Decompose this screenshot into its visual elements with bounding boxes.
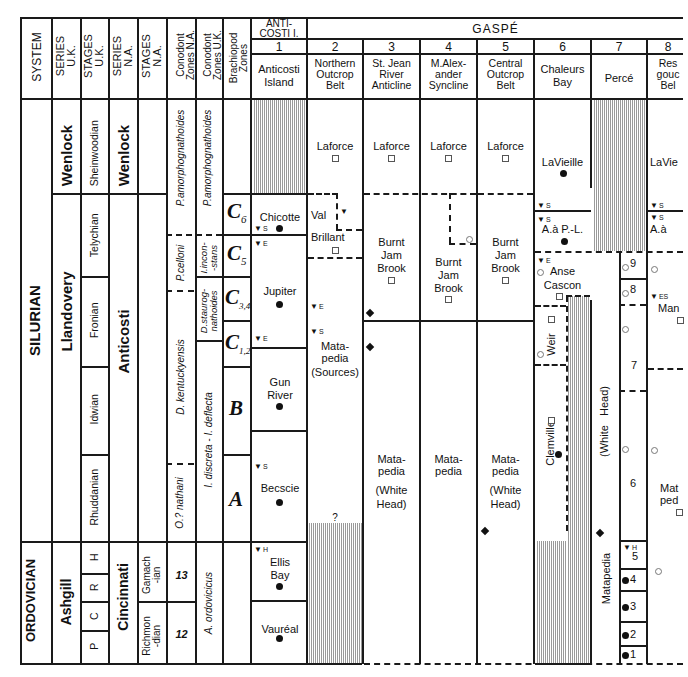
fossil-circle — [622, 264, 629, 271]
formation-laforce: Laforce — [478, 141, 533, 152]
col1-line — [252, 193, 308, 195]
marker-e: ▼E — [254, 335, 268, 343]
marker-s: ▼S — [254, 225, 268, 233]
col-divider — [108, 17, 110, 664]
col7-dash — [619, 304, 646, 306]
col7-hiatus — [593, 100, 646, 251]
stage-na-richmondian: Richmon-dian — [142, 608, 162, 664]
fossil-square — [445, 155, 452, 162]
brach-c6-top — [222, 193, 252, 195]
fossil-dot — [276, 635, 283, 642]
locality-num-1: 1 — [252, 41, 306, 53]
brach-zone-c5: C5 — [227, 243, 247, 267]
col3-dash — [364, 193, 476, 195]
stage-uk-sheinwoodian: Sheinwoodian — [89, 103, 100, 203]
col7-dash — [619, 390, 646, 392]
fossil-circle — [537, 351, 544, 358]
series-na-anticosti: Anticosti — [116, 287, 131, 397]
stage-na-gamachian: Gamach-ian — [142, 549, 162, 601]
marker-s: ▼S — [650, 202, 664, 210]
locality-num-8: 8 — [648, 41, 688, 53]
formation-becscie: Becscie — [252, 483, 308, 494]
formation-laforce: Laforce — [421, 141, 476, 152]
fronian-idwian — [80, 366, 108, 368]
col-divider — [590, 38, 592, 188]
locality-num-4: 4 — [421, 41, 476, 53]
formation-val-brillant-1: Val — [311, 210, 326, 221]
unit-6: 6 — [630, 478, 636, 489]
conodont-na-zone-13: 13 — [168, 570, 195, 581]
col1-line — [252, 234, 308, 236]
telychian-fronian — [80, 276, 108, 278]
formation-laforce: Laforce — [364, 141, 419, 152]
fossil-dot — [561, 238, 568, 245]
gamachian-richmondian — [137, 601, 195, 603]
col1-bottom — [252, 663, 308, 665]
stage-uk-r: R — [89, 577, 100, 597]
fossil-circle — [651, 266, 658, 273]
r-c — [80, 601, 108, 603]
col7-line — [619, 645, 648, 647]
brach-zone-c34: C3,4 — [225, 287, 250, 311]
col3-line — [364, 320, 534, 322]
conodont-na-onathani: O.? nathani — [175, 463, 185, 543]
formation-a-a-partial: A.à — [650, 224, 667, 235]
unit-5: 5 — [632, 551, 638, 562]
formation-weir: Weir — [546, 327, 557, 363]
unit-3: 3 — [630, 601, 636, 612]
marker-h: ▼H — [254, 546, 268, 554]
fossil-dot — [276, 583, 283, 590]
col5-dash — [478, 193, 533, 195]
formation-white-head: (White Head) — [599, 382, 610, 462]
locality-name-6: ChaleursBay — [535, 63, 590, 89]
col8-dash — [648, 368, 683, 370]
col6-bottom — [535, 663, 591, 665]
locality-num-2: 2 — [308, 41, 362, 53]
dstaurog-idiscreta — [195, 340, 223, 342]
locality-name-7: Percé — [592, 73, 646, 84]
col-divider — [137, 17, 139, 664]
formation-lavieille-partial: LaVie — [650, 157, 678, 168]
series-na-cincinnati: Cincinnati — [116, 547, 130, 647]
locality-name-5: CentralOutcropBelt — [477, 58, 534, 91]
brach-zone-c6: C6 — [227, 201, 247, 225]
question-mark: ? — [308, 513, 362, 523]
col7-line — [619, 278, 648, 280]
col1-line — [252, 430, 308, 432]
col6-right — [590, 300, 592, 664]
col-divider — [166, 17, 168, 664]
formation-white-head: (WhiteHead) — [364, 483, 419, 511]
locality-num-5: 5 — [478, 41, 533, 53]
fossil-square — [332, 247, 339, 254]
stage-uk-fronian: Fronian — [89, 280, 100, 360]
series-na-wenlock: Wenlock — [116, 111, 131, 201]
formation-a-a-p-l: A.à P.-L. — [535, 224, 590, 235]
fossil-dot — [622, 632, 629, 639]
c-p — [80, 630, 108, 632]
locality-name-1: AnticostiIsland — [252, 63, 306, 89]
locality-name-3: St. JeanRiverAnticline — [362, 58, 421, 91]
formation-matapedia-partial: Matped — [660, 482, 678, 506]
col4-dash-h — [449, 243, 476, 245]
fossil-dot — [276, 403, 283, 410]
locality-name-2: NorthernOutcropBelt — [306, 58, 364, 91]
stage-uk-c: C — [89, 606, 100, 626]
col-divider — [51, 17, 53, 664]
formation-white-head: (WhiteHead) — [478, 483, 533, 511]
unit-2: 2 — [630, 629, 636, 640]
header-stages-uk: STAGESU.K. — [83, 26, 105, 86]
formation-jupiter: Jupiter — [252, 286, 308, 297]
formation-matapedia: Mata-pedia — [421, 453, 476, 477]
conodont-na-pamorph: P.amorphognathoides — [176, 93, 186, 223]
col-divider — [533, 38, 535, 664]
formation-chicotte: Chicotte — [252, 212, 308, 223]
formation-val-brillant-2: Brillant — [311, 232, 345, 243]
marker-s: ▼S — [310, 328, 324, 336]
conodont-na-pcelloni: P.celloni — [176, 228, 186, 298]
formation-vaureal: Vauréal — [252, 624, 308, 635]
marker-s: ▼S — [254, 463, 268, 471]
fossil-dot — [276, 225, 283, 232]
stage-uk-telychian: Telychian — [89, 195, 100, 275]
fossil-circle — [655, 568, 662, 575]
series-uk-ashgill: Ashgill — [59, 557, 73, 647]
